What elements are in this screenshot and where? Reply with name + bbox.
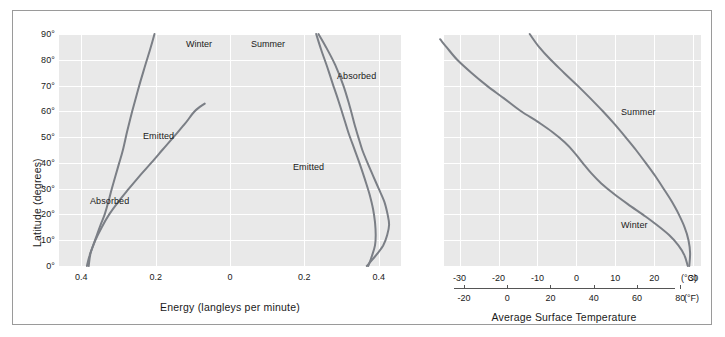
fahrenheit-tick-label: 20 bbox=[545, 293, 555, 303]
curve-winter-absorbed bbox=[89, 104, 205, 266]
energy-panel: Winter Summer Emitted Absorbed Absorbed … bbox=[59, 34, 401, 266]
celsius-tick-label: -10 bbox=[531, 273, 544, 283]
fahrenheit-unit-label: (°F) bbox=[684, 293, 699, 303]
y-tick-label: 90° bbox=[13, 29, 55, 39]
y-tick-label: 50° bbox=[13, 132, 55, 142]
energy-x-tick-label: 0.2 bbox=[298, 272, 311, 282]
winter-section-header: Winter bbox=[186, 39, 212, 49]
energy-x-tick-label: 0.4 bbox=[75, 272, 88, 282]
energy-x-tick-label: 0 bbox=[227, 272, 232, 282]
energy-x-tick-label: 0.4 bbox=[372, 272, 385, 282]
y-axis-title: Latitude (degrees) bbox=[31, 158, 43, 247]
label-winter-emitted: Emitted bbox=[143, 131, 174, 141]
label-summer-emitted: Emitted bbox=[293, 162, 324, 172]
fahrenheit-tick-label: -20 bbox=[457, 293, 470, 303]
curve-summer-emitted bbox=[316, 34, 376, 266]
celsius-tick-label: -20 bbox=[492, 273, 505, 283]
fahrenheit-tick-label: 0 bbox=[505, 293, 510, 303]
figure-frame: Latitude (degrees) 90°80°70°60°50°40°30°… bbox=[12, 10, 712, 325]
celsius-tick-label: 20 bbox=[649, 273, 659, 283]
y-tick-label: 60° bbox=[13, 106, 55, 116]
y-tick-label: 70° bbox=[13, 81, 55, 91]
y-tick-label: 10° bbox=[13, 235, 55, 245]
temperature-curves bbox=[444, 34, 701, 266]
fahrenheit-axis-line bbox=[454, 288, 675, 289]
energy-plot-area: Winter Summer Emitted Absorbed Absorbed … bbox=[59, 34, 401, 266]
label-temp-summer: Summer bbox=[621, 107, 656, 117]
fahrenheit-tick-label: 60 bbox=[632, 293, 642, 303]
fahrenheit-tick-mark bbox=[507, 285, 508, 289]
celsius-tick-label: -30 bbox=[453, 273, 466, 283]
label-winter-absorbed: Absorbed bbox=[90, 196, 129, 206]
summer-section-header: Summer bbox=[251, 39, 285, 49]
energy-curves bbox=[59, 34, 401, 266]
y-tick-label: 20° bbox=[13, 209, 55, 219]
fahrenheit-tick-mark bbox=[680, 285, 681, 289]
fahrenheit-tick-mark bbox=[550, 285, 551, 289]
energy-x-axis-title: Energy (langleys per minute) bbox=[160, 301, 300, 313]
y-tick-label: 80° bbox=[13, 55, 55, 65]
celsius-unit-label: (°C) bbox=[681, 273, 697, 283]
y-tick-label: 30° bbox=[13, 184, 55, 194]
curve-winter-emitted bbox=[87, 34, 155, 266]
celsius-tick-label: 10 bbox=[610, 273, 620, 283]
energy-x-tick-label: 0.2 bbox=[149, 272, 162, 282]
fahrenheit-tick-mark bbox=[464, 285, 465, 289]
y-tick-label: 0° bbox=[13, 261, 55, 271]
label-temp-winter: Winter bbox=[621, 220, 648, 230]
label-summer-absorbed: Absorbed bbox=[337, 71, 376, 81]
fahrenheit-tick-mark bbox=[637, 285, 638, 289]
fahrenheit-tick-mark bbox=[594, 285, 595, 289]
y-tick-label: 40° bbox=[13, 158, 55, 168]
temperature-panel: Summer Winter -30-20-100102030 (°C) -200… bbox=[444, 34, 701, 266]
temperature-plot-area: Summer Winter bbox=[444, 34, 701, 266]
fahrenheit-tick-label: 40 bbox=[589, 293, 599, 303]
temperature-x-axis-title: Average Surface Temperature bbox=[491, 311, 636, 323]
celsius-tick-label: 0 bbox=[574, 273, 579, 283]
